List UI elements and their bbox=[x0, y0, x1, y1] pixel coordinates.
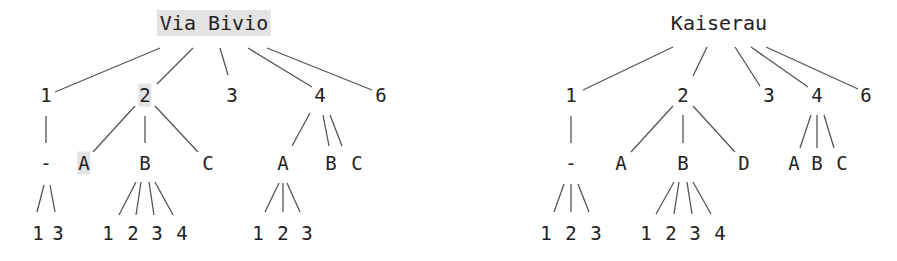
tree-node: 2 bbox=[276, 222, 289, 245]
tree-node: 2 bbox=[676, 84, 689, 107]
tree-node: 2 bbox=[664, 222, 677, 245]
tree-node: 1 bbox=[639, 222, 652, 245]
tree-node: 4 bbox=[175, 222, 188, 245]
tree-edge bbox=[693, 106, 735, 152]
tree-edge bbox=[800, 115, 811, 148]
tree-edge bbox=[687, 182, 692, 214]
tree-node: 6 bbox=[859, 84, 872, 107]
tree-node: 3 bbox=[225, 84, 238, 107]
tree-diagram-canvas: Via Bivio12346-ABCABC131234123Kaiserau12… bbox=[0, 0, 897, 261]
tree-node: 3 bbox=[51, 222, 64, 245]
tree-node: 1 bbox=[539, 222, 552, 245]
right-tree-root-node: Kaiserau bbox=[668, 10, 770, 36]
tree-node: - bbox=[564, 152, 577, 175]
tree-edge bbox=[155, 182, 173, 215]
tree-node: 1 bbox=[101, 222, 114, 245]
tree-edge bbox=[37, 185, 44, 212]
tree-edge bbox=[149, 182, 154, 215]
tree-node: 1 bbox=[251, 222, 264, 245]
tree-node: 3 bbox=[688, 222, 701, 245]
tree-edge bbox=[323, 115, 329, 146]
tree-node: 3 bbox=[150, 222, 163, 245]
tree-node: C bbox=[201, 152, 214, 175]
tree-edge bbox=[157, 48, 193, 84]
tree-node: 2 bbox=[564, 222, 577, 245]
tree-node: 3 bbox=[589, 222, 602, 245]
tree-node: B bbox=[324, 152, 337, 175]
tree-edge bbox=[287, 183, 300, 212]
tree-node: A bbox=[77, 152, 90, 175]
tree-node: 3 bbox=[762, 84, 775, 107]
tree-node: D bbox=[737, 152, 750, 175]
tree-edge bbox=[93, 106, 135, 152]
tree-node: 1 bbox=[39, 84, 52, 107]
tree-edge bbox=[631, 106, 673, 152]
tree-node: 4 bbox=[810, 84, 823, 107]
tree-edge bbox=[220, 48, 228, 75]
tree-edge bbox=[330, 115, 342, 146]
tree-edge bbox=[292, 113, 310, 146]
tree-edge bbox=[693, 47, 707, 76]
tree-node: 4 bbox=[713, 222, 726, 245]
tree-edge bbox=[119, 182, 136, 215]
tree-node: A bbox=[276, 152, 289, 175]
tree-edge bbox=[155, 106, 198, 152]
tree-node: 3 bbox=[300, 222, 313, 245]
tree-node: 1 bbox=[564, 84, 577, 107]
tree-node: 4 bbox=[313, 84, 326, 107]
tree-node: 2 bbox=[126, 222, 139, 245]
left-tree-root-node: Via Bivio bbox=[157, 10, 271, 36]
tree-edge bbox=[136, 182, 141, 215]
tree-edge bbox=[554, 184, 564, 212]
tree-node: B bbox=[138, 152, 151, 175]
tree-node: B bbox=[676, 152, 689, 175]
tree-node: 6 bbox=[374, 84, 387, 107]
tree-edge bbox=[735, 47, 760, 86]
tree-edge bbox=[693, 182, 711, 214]
tree-node: - bbox=[39, 152, 52, 175]
tree-node: A bbox=[614, 152, 627, 175]
tree-edge bbox=[583, 47, 673, 90]
right-tree-edges bbox=[554, 47, 858, 214]
tree-node: A bbox=[787, 152, 800, 175]
tree-edge bbox=[578, 184, 589, 212]
tree-edge bbox=[674, 182, 679, 214]
tree-edge bbox=[50, 185, 55, 212]
tree-node: 2 bbox=[138, 84, 151, 107]
tree-node: 1 bbox=[31, 222, 44, 245]
tree-edge bbox=[656, 182, 674, 214]
tree-edge bbox=[265, 183, 279, 212]
tree-edge bbox=[824, 115, 834, 148]
tree-node: B bbox=[810, 152, 823, 175]
tree-node: C bbox=[350, 152, 363, 175]
tree-node: C bbox=[835, 152, 848, 175]
left-tree-edges bbox=[37, 48, 372, 215]
